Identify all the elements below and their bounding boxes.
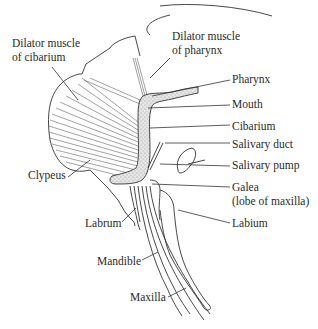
label-galea-line1: Galea <box>232 181 259 193</box>
label-pharynx: Pharynx <box>232 73 271 86</box>
label-dilator-muscle-pharynx-line1: Dilator muscle <box>172 30 240 42</box>
label-dilator-muscle-cibarium-line1: Dilator muscle <box>12 37 80 49</box>
label-maxilla: Maxilla <box>130 291 166 303</box>
label-dilator-muscle-pharynx-line2: of pharynx <box>172 44 222 57</box>
label-mouth: Mouth <box>232 98 263 110</box>
labels: Dilator muscle of cibarium Dilator muscl… <box>12 30 309 303</box>
mouthparts-diagram: Dilator muscle of cibarium Dilator muscl… <box>0 0 318 329</box>
label-labrum: Labrum <box>85 217 121 229</box>
label-galea-line2: (lobe of maxilla) <box>232 195 309 208</box>
label-salivary-duct: Salivary duct <box>232 138 294 151</box>
label-clypeus: Clypeus <box>28 169 66 182</box>
label-labium: Labium <box>232 217 268 229</box>
label-cibarium: Cibarium <box>232 120 275 132</box>
dilator-muscle-pharynx <box>133 58 147 96</box>
pharynx-cibarium-cavity <box>110 87 198 184</box>
dilator-muscle-cibarium <box>49 78 140 178</box>
label-mandible: Mandible <box>97 255 141 267</box>
label-dilator-muscle-cibarium-line2: of cibarium <box>12 51 65 63</box>
label-salivary-pump: Salivary pump <box>232 159 300 172</box>
